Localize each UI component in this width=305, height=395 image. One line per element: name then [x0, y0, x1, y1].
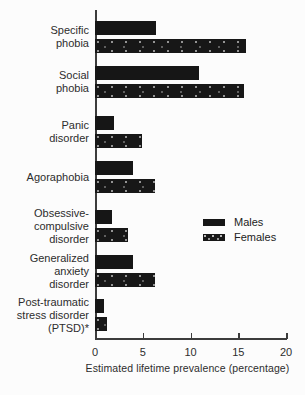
- category-label: Specificphobia: [0, 24, 89, 50]
- bar-males: [95, 116, 114, 130]
- bar-males: [95, 21, 156, 35]
- legend-label-males: Males: [234, 216, 263, 228]
- category-label-line: Obsessive-: [0, 207, 89, 220]
- category-label-line: compulsive: [0, 220, 89, 233]
- category-label: Panicdisorder: [0, 119, 89, 145]
- category-label: Socialphobia: [0, 69, 89, 95]
- x-tick-mark: [286, 333, 288, 339]
- plot-area: SpecificphobiaSocialphobiaPanicdisorderA…: [0, 0, 305, 395]
- category-label-line: Agoraphobia: [0, 171, 89, 184]
- bar-females: [95, 134, 142, 148]
- x-tick-label: 0: [83, 346, 107, 358]
- bar-females: [95, 179, 155, 193]
- x-axis-title: Estimated lifetime prevalence (percentag…: [70, 362, 305, 374]
- x-tick-mark: [191, 333, 193, 339]
- x-tick-label: 20: [274, 346, 298, 358]
- x-tick-mark: [238, 333, 240, 339]
- category-label: Obsessive-compulsivedisorder: [0, 207, 89, 246]
- bar-females: [95, 273, 155, 287]
- category-label-line: Generalized: [0, 252, 89, 265]
- legend: Males Females: [203, 217, 276, 247]
- category-label-line: disorder: [0, 278, 89, 291]
- bar-females: [95, 84, 244, 98]
- category-label-line: disorder: [0, 132, 89, 145]
- category-label-line: phobia: [0, 37, 89, 50]
- x-tick-label: 10: [179, 346, 203, 358]
- x-tick-label: 5: [131, 346, 155, 358]
- category-label-line: Social: [0, 69, 89, 82]
- bar-males: [95, 299, 104, 313]
- category-label-line: disorder: [0, 233, 89, 246]
- bar-males: [95, 210, 112, 224]
- x-tick-label: 15: [226, 346, 250, 358]
- legend-item-females: Females: [203, 232, 276, 242]
- category-label-line: Post-traumatic: [0, 296, 89, 309]
- females-swatch-icon: [203, 234, 225, 241]
- category-label-line: stress disorder: [0, 309, 89, 322]
- bar-males: [95, 255, 133, 269]
- category-label-line: Panic: [0, 119, 89, 132]
- category-label: Generalizedanxietydisorder: [0, 252, 89, 291]
- category-label-line: Specific: [0, 24, 89, 37]
- bar-males: [95, 161, 133, 175]
- category-label-line: anxiety: [0, 265, 89, 278]
- category-label-line: (PTSD)*: [0, 322, 89, 335]
- legend-label-females: Females: [234, 231, 276, 243]
- category-label: Post-traumaticstress disorder(PTSD)*: [0, 296, 89, 335]
- category-label-line: phobia: [0, 82, 89, 95]
- x-tick-mark: [143, 333, 145, 339]
- bar-females: [95, 317, 107, 331]
- bar-males: [95, 66, 199, 80]
- category-label: Agoraphobia: [0, 171, 89, 184]
- anxiety-prevalence-bar-chart: SpecificphobiaSocialphobiaPanicdisorderA…: [0, 0, 305, 395]
- bar-females: [95, 228, 128, 242]
- bar-females: [95, 39, 246, 53]
- males-swatch-icon: [203, 219, 225, 226]
- legend-item-males: Males: [203, 217, 276, 227]
